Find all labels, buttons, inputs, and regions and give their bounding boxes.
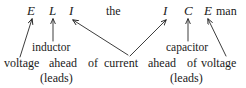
label-capacitor: capacitor — [166, 42, 208, 54]
eli-the-ice-man-figure: E L I the I C E man inductor capacitor v… — [0, 0, 246, 88]
explanation-current: current — [104, 57, 138, 69]
leads-annotation-left: (leads) — [40, 72, 73, 84]
mnemonic-letter-I-capacitor-current: I — [163, 4, 167, 17]
explanation-right-voltage: voltage — [201, 57, 236, 69]
explanation-right-of: of — [187, 57, 197, 69]
explanation-left-of: of — [88, 57, 98, 69]
arrow-voltage-to-E-icon — [20, 19, 32, 57]
arrow-current-to-I-right-icon — [130, 20, 166, 56]
label-inductor: inductor — [32, 42, 70, 54]
mnemonic-word-man: man — [216, 5, 237, 17]
mnemonic-letter-I-inductor-current: I — [69, 4, 73, 17]
leads-annotation-right: (leads) — [170, 72, 203, 84]
arrow-current-to-I-left-icon — [73, 20, 128, 55]
mnemonic-letter-E-inductor-voltage: E — [27, 4, 35, 17]
mnemonic-letter-E-capacitor-voltage: E — [204, 4, 212, 17]
mnemonic-word-the: the — [106, 5, 121, 17]
mnemonic-letter-C-capacitor: C — [184, 4, 193, 17]
explanation-right-ahead: ahead — [148, 57, 176, 69]
mnemonic-letter-L-inductor: L — [49, 4, 56, 17]
explanation-left-voltage: voltage — [4, 57, 39, 69]
arrow-voltage-to-E2-icon — [208, 19, 226, 56]
explanation-left-ahead: ahead — [49, 57, 77, 69]
